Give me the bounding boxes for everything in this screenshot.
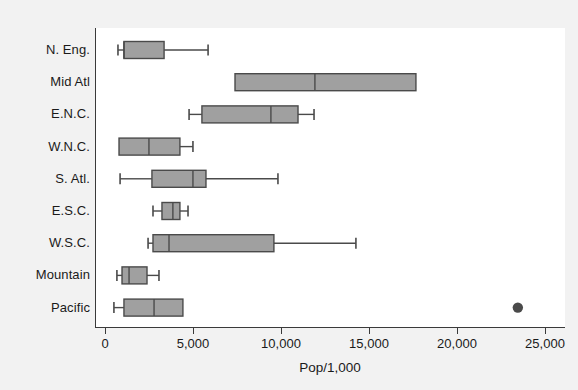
x-axis-tick-label: 0 xyxy=(101,336,108,351)
box-iqr-rect xyxy=(153,235,274,252)
box-plot-figure: N. Eng.Mid AtlE.N.C.W.N.C.S. Atl.E.S.C.W… xyxy=(0,0,578,390)
box-plot-item xyxy=(117,267,159,284)
box-iqr-rect xyxy=(124,42,164,59)
category-label: N. Eng. xyxy=(0,43,90,57)
box-plot-item xyxy=(114,299,523,316)
x-axis-tick xyxy=(193,328,194,334)
plot-area xyxy=(95,28,565,328)
x-axis-tick xyxy=(105,328,106,334)
box-plot-item xyxy=(118,42,208,59)
x-axis-tick-label: 5,000 xyxy=(177,336,210,351)
x-axis-tick-label: 15,000 xyxy=(349,336,389,351)
box-plot-item xyxy=(148,235,356,252)
category-label: W.N.C. xyxy=(0,140,90,154)
box-plot-item xyxy=(235,74,416,91)
box-iqr-rect xyxy=(152,170,206,187)
box-iqr-rect xyxy=(162,203,180,220)
category-label: E.N.C. xyxy=(0,107,90,121)
x-axis-tick-label: 20,000 xyxy=(437,336,477,351)
category-label: E.S.C. xyxy=(0,204,90,218)
category-label: S. Atl. xyxy=(0,172,90,186)
x-axis-tick xyxy=(457,328,458,334)
category-axis-labels: N. Eng.Mid AtlE.N.C.W.N.C.S. Atl.E.S.C.W… xyxy=(0,0,90,390)
category-label: Mountain xyxy=(0,268,90,282)
x-axis-tick xyxy=(369,328,370,334)
x-axis-tick-label: 10,000 xyxy=(261,336,301,351)
box-plot-canvas xyxy=(96,28,566,328)
box-iqr-rect xyxy=(235,74,416,91)
x-axis-title: Pop/1,000 xyxy=(95,360,565,375)
category-label: Mid Atl xyxy=(0,75,90,89)
box-plot-item xyxy=(153,203,188,220)
x-axis-tick xyxy=(281,328,282,334)
box-iqr-rect xyxy=(202,106,298,123)
x-axis-tick-label: 25,000 xyxy=(525,336,565,351)
box-plot-item xyxy=(120,170,278,187)
x-axis-tick xyxy=(545,328,546,334)
outlier-point xyxy=(513,302,523,312)
category-label: W.S.C. xyxy=(0,236,90,250)
box-plot-item xyxy=(189,106,314,123)
box-plot-item xyxy=(119,138,193,155)
box-iqr-rect xyxy=(122,267,147,284)
category-label: Pacific xyxy=(0,301,90,315)
